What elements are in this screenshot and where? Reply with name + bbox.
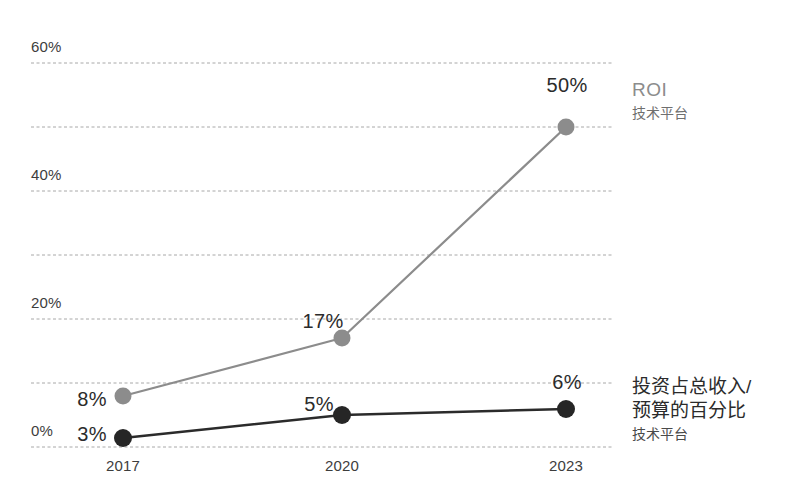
- data-point-roi-2023: [558, 119, 575, 136]
- data-label-roi-2023: 50%: [547, 74, 588, 97]
- data-point-investment-2020: [333, 406, 351, 424]
- legend-investment-subtitle: 技术平台: [632, 424, 751, 444]
- data-point-roi-2017: [115, 388, 132, 405]
- x-axis-tick-2017: 2017: [106, 457, 140, 474]
- legend-roi-title: ROI: [632, 78, 688, 102]
- series-line-roi: [115, 119, 575, 405]
- legend-item-roi[interactable]: ROI 技术平台: [632, 78, 688, 123]
- series-line-investment: [114, 400, 575, 447]
- legend-investment-title-line2: 预算的百分比: [632, 399, 751, 423]
- data-label-investment-2023: 6%: [552, 371, 582, 394]
- chart-container: 60% 40% 20% 0% 2017 2020 2023 8% 17% 50%…: [0, 0, 789, 490]
- data-label-investment-2017: 3%: [77, 423, 107, 446]
- y-axis-tick-60: 60%: [31, 38, 62, 55]
- x-axis-tick-2020: 2020: [325, 457, 359, 474]
- y-axis-tick-20: 20%: [31, 294, 62, 311]
- legend-item-investment[interactable]: 投资占总收入/ 预算的百分比 技术平台: [632, 375, 751, 444]
- y-axis-tick-0: 0%: [31, 422, 53, 439]
- data-point-investment-2017: [114, 429, 132, 447]
- data-label-roi-2017: 8%: [77, 388, 107, 411]
- x-axis-tick-2023: 2023: [549, 457, 583, 474]
- data-label-investment-2020: 5%: [304, 393, 334, 416]
- legend-investment-title-line1: 投资占总收入/: [632, 375, 751, 399]
- data-point-investment-2023: [557, 400, 575, 418]
- y-axis-tick-40: 40%: [31, 166, 62, 183]
- legend-roi-subtitle: 技术平台: [632, 103, 688, 123]
- data-label-roi-2020: 17%: [303, 310, 344, 333]
